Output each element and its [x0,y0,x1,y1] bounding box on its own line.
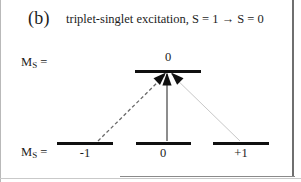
transition-arrowhead-plus1 [171,73,184,85]
energy-level-diagram-figure: (b) triplet-singlet excitation, S = 1 → … [0,0,301,182]
transition-line-minus1-to-0 [98,74,166,141]
transition-arrows-layer [0,0,301,182]
transition-line-plus1-to-0 [171,74,240,141]
